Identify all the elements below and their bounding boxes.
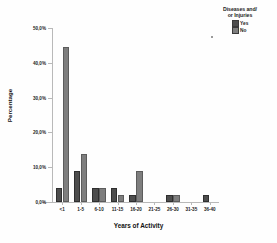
y-axis-tick	[48, 132, 52, 133]
bar-group	[164, 28, 182, 202]
x-axis-title: Years of Activity	[0, 222, 277, 229]
bar-group	[127, 28, 145, 202]
y-axis-tick	[48, 167, 52, 168]
y-axis-tick	[48, 63, 52, 64]
bar-yes[interactable]	[92, 188, 98, 202]
x-axis-tick	[210, 202, 211, 205]
x-axis-tick-label: 31-35	[185, 207, 197, 212]
y-axis-tick	[48, 202, 52, 203]
y-axis-tick-label: 50,0%	[20, 26, 46, 31]
bar-yes[interactable]	[111, 188, 117, 202]
y-axis-tick-label: 10,0%	[20, 165, 46, 170]
bar-no[interactable]	[81, 154, 87, 202]
x-axis-tick	[99, 202, 100, 205]
y-axis-tick	[48, 28, 52, 29]
x-axis-tick-label: 21-25	[149, 207, 161, 212]
bar-no[interactable]	[63, 47, 69, 202]
legend-items: Yes No	[232, 21, 249, 34]
bar-yes[interactable]	[74, 171, 80, 202]
x-axis-tick-label: 1-5	[77, 207, 84, 212]
legend-swatch-no-icon	[232, 27, 239, 34]
x-axis-tick	[81, 202, 82, 205]
x-axis-tick	[173, 202, 174, 205]
bar-group	[145, 28, 163, 202]
y-axis-title: Percentage	[6, 76, 13, 136]
x-axis-tick-label: 36-40	[204, 207, 216, 212]
y-axis-tick-label: 20,0%	[20, 130, 46, 135]
legend-item-no[interactable]: No	[232, 27, 249, 33]
legend-title-line-2: or Injuries	[205, 12, 275, 18]
legend-label-yes: Yes	[240, 21, 248, 26]
x-axis-tick-label: 11-15	[112, 207, 124, 212]
x-axis-tick	[62, 202, 63, 205]
bar-no[interactable]	[136, 171, 142, 202]
bar-group	[90, 28, 108, 202]
x-axis-line	[42, 202, 219, 203]
bar-no[interactable]	[99, 188, 105, 202]
x-axis-tick-label: 6-10	[95, 207, 104, 212]
x-axis-tick-label: <1	[60, 207, 65, 212]
bar-group	[108, 28, 126, 202]
x-axis-tick	[191, 202, 192, 205]
legend-title: Diseases and/ or Injuries	[205, 6, 275, 18]
bar-no[interactable]	[173, 195, 179, 202]
bar-group	[53, 28, 71, 202]
bar-group	[201, 28, 219, 202]
x-axis-tick	[136, 202, 137, 205]
bar-yes[interactable]	[56, 188, 62, 202]
y-axis-tick-label: 0,0%	[20, 200, 46, 205]
plot-area	[53, 28, 219, 202]
bar-yes[interactable]	[166, 195, 172, 202]
x-axis-tick-label: 26-30	[167, 207, 179, 212]
bar-chart: Diseases and/ or Injuries Yes No Percent…	[0, 0, 277, 243]
bar-group	[182, 28, 200, 202]
y-axis-tick-label: 30,0%	[20, 95, 46, 100]
y-axis-tick	[48, 98, 52, 99]
bar-no[interactable]	[118, 195, 124, 202]
y-axis-tick-label: 40,0%	[20, 60, 46, 65]
bar-group	[71, 28, 89, 202]
x-axis-tick-label: 16-20	[130, 207, 142, 212]
bar-yes[interactable]	[203, 195, 209, 202]
legend-label-no: No	[240, 28, 246, 33]
x-axis-tick	[154, 202, 155, 205]
bar-yes[interactable]	[129, 195, 135, 202]
x-axis-tick	[118, 202, 119, 205]
